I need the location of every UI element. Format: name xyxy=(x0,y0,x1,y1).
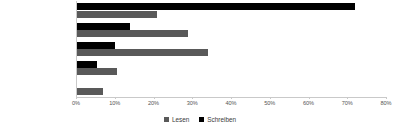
x-tick-mark xyxy=(76,97,77,99)
x-tick-label: 70% xyxy=(332,100,362,106)
x-tick-mark xyxy=(115,97,116,99)
x-tick-label: 40% xyxy=(216,100,246,106)
x-tick-mark xyxy=(309,97,310,99)
x-tick-mark xyxy=(192,97,193,99)
bar-group xyxy=(76,39,386,58)
bar-lesen xyxy=(76,30,188,37)
legend-item-schreiben[interactable]: Schreiben xyxy=(199,116,236,123)
bar-group xyxy=(76,1,386,20)
bar-lesen xyxy=(76,88,103,95)
category-row: mehrmals täglich xyxy=(76,78,386,97)
bar-lesen xyxy=(76,49,208,56)
bar-lesen xyxy=(76,11,157,18)
x-tick-mark xyxy=(270,97,271,99)
x-tick-label: 10% xyxy=(100,100,130,106)
legend-label: Lesen xyxy=(172,116,189,123)
category-row: monatlich xyxy=(76,20,386,39)
x-tick-label: 60% xyxy=(294,100,324,106)
legend-item-lesen[interactable]: Lesen xyxy=(164,116,189,123)
x-tick-label: 0% xyxy=(61,100,91,106)
x-tick-mark xyxy=(154,97,155,99)
x-tick-label: 30% xyxy=(177,100,207,106)
chart-legend: LesenSchreiben xyxy=(0,116,400,123)
category-row: täglich xyxy=(76,59,386,78)
y-axis-line xyxy=(76,1,77,97)
x-tick-mark xyxy=(347,97,348,99)
bar-group xyxy=(76,59,386,78)
bar-chart: seltener als monatlichmonatlichwöchentli… xyxy=(0,0,400,131)
x-tick-label: 50% xyxy=(255,100,285,106)
plot-area: seltener als monatlichmonatlichwöchentli… xyxy=(76,1,386,97)
bar-schreiben xyxy=(76,3,355,10)
legend-swatch-icon xyxy=(164,117,169,122)
bar-schreiben xyxy=(76,61,97,68)
x-tick-mark xyxy=(386,97,387,99)
category-row: seltener als monatlich xyxy=(76,1,386,20)
bar-group xyxy=(76,78,386,97)
legend-swatch-icon xyxy=(199,117,204,122)
bar-schreiben xyxy=(76,42,115,49)
x-tick-label: 80% xyxy=(371,100,400,106)
legend-label: Schreiben xyxy=(207,116,236,123)
bar-group xyxy=(76,20,386,39)
bar-lesen xyxy=(76,68,117,75)
x-tick-label: 20% xyxy=(139,100,169,106)
category-row: wöchentlich xyxy=(76,39,386,58)
bar-schreiben xyxy=(76,23,130,30)
x-tick-mark xyxy=(231,97,232,99)
